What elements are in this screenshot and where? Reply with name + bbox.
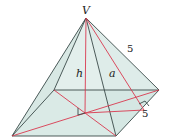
height-label: h <box>76 67 83 80</box>
lateral-edge-length-label: 5 <box>127 43 133 54</box>
pyramid-diagram: V h a 5 5 <box>0 0 173 137</box>
slant-height-label: a <box>109 67 116 80</box>
base-edge-length-label: 5 <box>142 108 148 119</box>
apex-label: V <box>82 4 91 17</box>
